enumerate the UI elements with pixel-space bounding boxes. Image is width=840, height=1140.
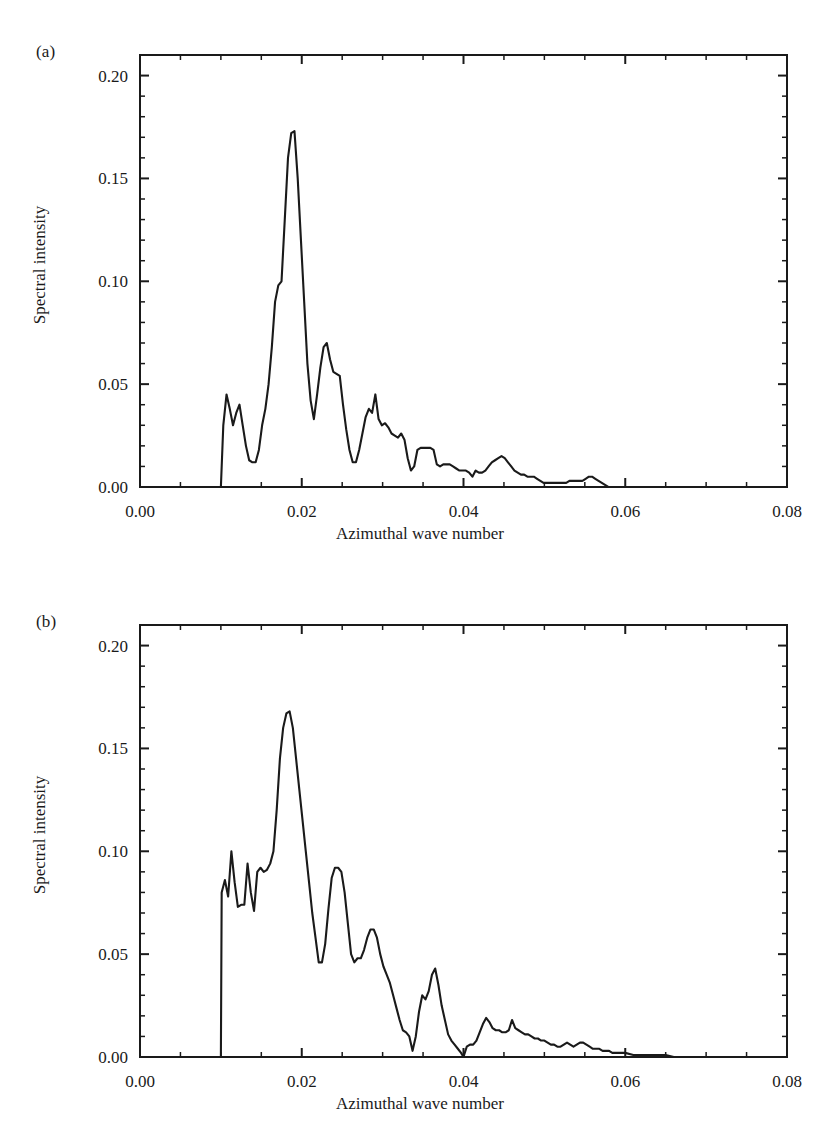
figure-container: (a) Spectral intensity 0.000.020.040.060… [0, 0, 840, 1140]
svg-text:0.02: 0.02 [287, 1072, 317, 1090]
svg-text:0.15: 0.15 [98, 739, 128, 758]
svg-text:0.20: 0.20 [98, 637, 128, 656]
svg-text:0.00: 0.00 [125, 1072, 155, 1090]
svg-text:0.05: 0.05 [98, 945, 128, 964]
svg-text:0.08: 0.08 [772, 502, 802, 520]
svg-text:0.05: 0.05 [98, 375, 128, 394]
svg-text:0.00: 0.00 [125, 502, 155, 520]
panel-a-plot: 0.000.020.040.060.080.000.050.100.150.20 [0, 0, 840, 520]
panel-b: (b) Spectral intensity 0.000.020.040.060… [0, 570, 840, 1140]
svg-text:0.04: 0.04 [449, 1072, 479, 1090]
svg-text:0.20: 0.20 [98, 67, 128, 86]
svg-text:0.00: 0.00 [98, 1048, 128, 1067]
svg-text:0.10: 0.10 [98, 842, 128, 861]
panel-a-data-line [140, 131, 787, 487]
svg-text:0.02: 0.02 [287, 502, 317, 520]
svg-text:0.10: 0.10 [98, 272, 128, 291]
svg-text:0.06: 0.06 [610, 1072, 640, 1090]
panel-a-xlabel: Azimuthal wave number [0, 524, 840, 544]
svg-text:0.08: 0.08 [772, 1072, 802, 1090]
panel-b-xlabel: Azimuthal wave number [0, 1094, 840, 1114]
svg-text:0.15: 0.15 [98, 169, 128, 188]
svg-text:0.06: 0.06 [610, 502, 640, 520]
panel-b-plot: 0.000.020.040.060.080.000.050.100.150.20 [0, 570, 840, 1090]
panel-a: (a) Spectral intensity 0.000.020.040.060… [0, 0, 840, 570]
panel-b-data-line [140, 711, 787, 1057]
svg-text:0.00: 0.00 [98, 478, 128, 497]
svg-text:0.04: 0.04 [449, 502, 479, 520]
